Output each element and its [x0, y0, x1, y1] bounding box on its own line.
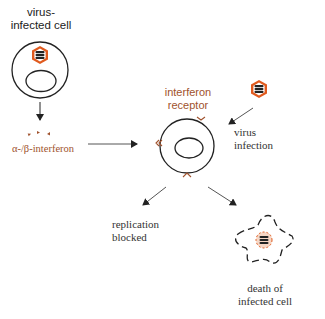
- dying-cell: [236, 216, 294, 264]
- arrow-to-cell-death: [208, 187, 236, 205]
- diagram-graphics: [0, 0, 325, 319]
- label-line: blocked: [112, 231, 159, 244]
- label-virus-infection: virus infection: [234, 126, 273, 152]
- label-line: virus-: [0, 6, 82, 19]
- virus-icon: [32, 46, 48, 64]
- label-line: infected cell: [225, 295, 305, 308]
- label-line: infected cell: [0, 19, 82, 32]
- label-line: infection: [234, 139, 273, 152]
- label-interferon-receptor: interferon receptor: [150, 86, 226, 112]
- interferon-diagram: virus- infected cell α-/β-interferon int…: [0, 0, 325, 319]
- arrow-virus-to-cell: [229, 108, 253, 124]
- label-line: death of: [225, 282, 305, 295]
- label-line: replication: [112, 218, 159, 231]
- label-line: virus: [234, 126, 273, 139]
- receptor-icon: [156, 140, 162, 146]
- label-interferon: α-/β-interferon: [6, 142, 80, 155]
- receptor-icon: [183, 173, 191, 177]
- target-cell: [156, 117, 214, 177]
- label-infected-cell: virus- infected cell: [0, 6, 82, 32]
- interferon-molecules-icon: [28, 131, 50, 136]
- label-replication-blocked: replication blocked: [112, 218, 159, 244]
- infected-cell: [12, 42, 68, 98]
- receptor-icon: [197, 117, 205, 120]
- label-line: interferon: [150, 86, 226, 99]
- label-line: receptor: [150, 99, 226, 112]
- virus-icon: [251, 80, 267, 98]
- arrow-to-replication-blocked: [143, 187, 166, 205]
- label-cell-death: death of infected cell: [225, 282, 305, 308]
